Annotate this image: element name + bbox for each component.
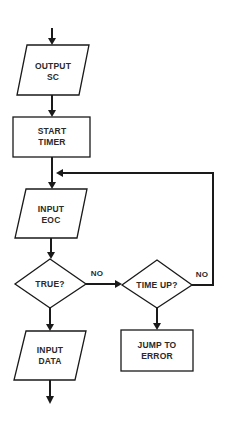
- edge-label-timeup-no: NO: [196, 270, 208, 279]
- node-jump-to-error-line2: ERROR: [141, 351, 173, 361]
- node-input-eoc-line1: INPUT: [38, 204, 65, 214]
- node-true-decision: TRUE?: [15, 259, 86, 308]
- node-input-data: INPUT DATA: [14, 331, 86, 380]
- arrow-timer-to-eoc: [48, 157, 56, 189]
- node-start-timer: START TIMER: [13, 117, 90, 157]
- node-output-sc-line1: OUTPUT: [35, 61, 72, 71]
- node-output-sc-line2: SC: [47, 72, 59, 82]
- node-jump-to-error-line1: JUMP TO: [138, 340, 177, 350]
- node-input-data-line1: INPUT: [37, 345, 64, 355]
- node-output-sc: OUTPUT SC: [17, 45, 89, 95]
- arrow-true-no-to-timeup: NO: [86, 269, 122, 288]
- flowchart-canvas: OUTPUT SC START TIMER INPUT EOC: [0, 0, 228, 422]
- node-input-eoc: INPUT EOC: [15, 189, 87, 238]
- edge-label-true-no: NO: [91, 269, 103, 278]
- node-input-data-line2: DATA: [38, 356, 61, 366]
- node-start-timer-line1: START: [38, 126, 67, 136]
- arrow-eoc-to-true: [47, 238, 55, 259]
- arrow-timeup-to-error: [153, 308, 161, 330]
- node-true-label: TRUE?: [35, 279, 64, 289]
- node-jump-to-error: JUMP TO ERROR: [121, 330, 193, 371]
- arrow-true-to-data: [46, 308, 54, 331]
- entry-arrow: [48, 28, 56, 45]
- node-start-timer-line2: TIMER: [38, 137, 65, 147]
- node-input-eoc-line2: EOC: [41, 215, 60, 225]
- node-time-up-label: TIME UP?: [136, 280, 177, 290]
- exit-arrow: [46, 380, 54, 404]
- arrow-output-to-timer: [48, 95, 56, 117]
